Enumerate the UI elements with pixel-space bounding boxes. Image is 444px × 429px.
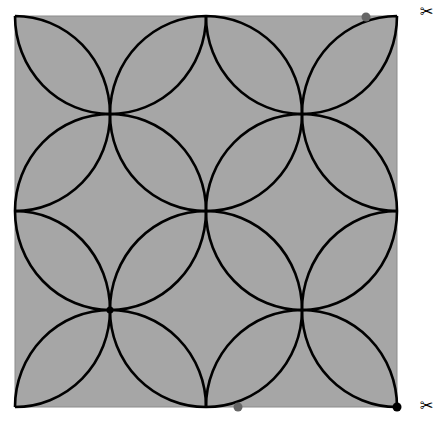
- bottom-middle-handle[interactable]: [234, 403, 243, 412]
- lower-left-intersection-point[interactable]: [107, 307, 114, 314]
- top-right-handle[interactable]: [362, 13, 371, 22]
- scissors-top-icon[interactable]: ✂: [420, 4, 433, 20]
- scissors-bottom-icon[interactable]: ✂: [420, 398, 433, 414]
- bottom-right-corner-point[interactable]: [393, 403, 402, 412]
- quilt-pattern-diagram: [0, 0, 444, 429]
